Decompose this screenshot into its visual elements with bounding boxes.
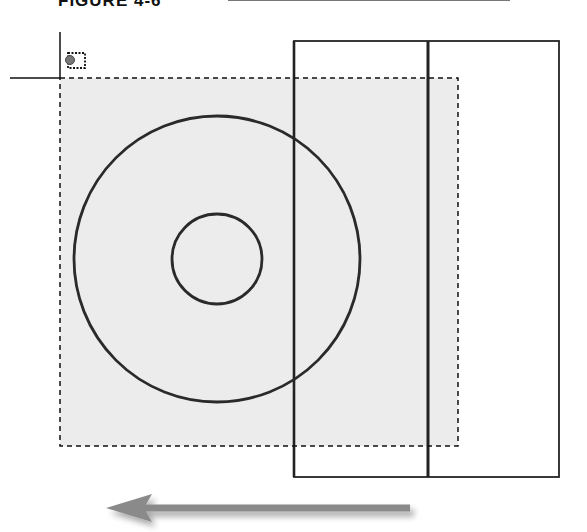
drag-direction-arrow [106,494,410,522]
crosshair-cursor [10,32,60,78]
selection-box-icon [66,53,86,68]
diagram-canvas [0,0,587,532]
selection-window-fill [60,78,458,446]
